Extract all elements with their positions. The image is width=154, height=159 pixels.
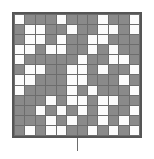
grid-cell[interactable]	[15, 116, 24, 125]
grid-cell[interactable]	[119, 55, 128, 64]
grid-cell[interactable]	[67, 15, 76, 24]
grid-cell[interactable]	[15, 126, 24, 135]
grid-cell[interactable]	[78, 35, 87, 44]
grid-cell[interactable]	[88, 45, 97, 54]
grid-cell[interactable]	[78, 116, 87, 125]
grid-cell[interactable]	[130, 126, 139, 135]
grid-cell[interactable]	[25, 106, 34, 115]
grid-cell[interactable]	[119, 45, 128, 54]
grid-cell[interactable]	[98, 75, 107, 84]
grid-cell[interactable]	[130, 65, 139, 74]
grid-cell[interactable]	[25, 86, 34, 95]
grid-cell[interactable]	[78, 96, 87, 105]
grid-cell[interactable]	[46, 45, 55, 54]
grid-cell[interactable]	[15, 75, 24, 84]
grid-cell[interactable]	[15, 106, 24, 115]
grid-cell[interactable]	[36, 55, 45, 64]
grid-cell[interactable]	[46, 25, 55, 34]
grid-cell[interactable]	[130, 35, 139, 44]
grid-cell[interactable]	[88, 126, 97, 135]
grid-cell[interactable]	[88, 116, 97, 125]
grid-cell[interactable]	[98, 86, 107, 95]
grid-cell[interactable]	[119, 126, 128, 135]
grid-cell[interactable]	[78, 106, 87, 115]
grid-cell[interactable]	[119, 35, 128, 44]
grid-cell[interactable]	[78, 86, 87, 95]
grid-cell[interactable]	[67, 96, 76, 105]
grid-cell[interactable]	[25, 116, 34, 125]
grid-cell[interactable]	[36, 15, 45, 24]
grid-cell[interactable]	[15, 55, 24, 64]
grid-cell[interactable]	[46, 86, 55, 95]
grid-cell[interactable]	[98, 45, 107, 54]
grid-cell[interactable]	[46, 35, 55, 44]
grid-cell[interactable]	[88, 86, 97, 95]
grid-cell[interactable]	[109, 55, 118, 64]
grid-cell[interactable]	[36, 65, 45, 74]
grid-cell[interactable]	[98, 15, 107, 24]
grid-cell[interactable]	[88, 55, 97, 64]
grid-cell[interactable]	[109, 96, 118, 105]
grid-cell[interactable]	[67, 55, 76, 64]
grid-cell[interactable]	[130, 15, 139, 24]
grid-cell[interactable]	[98, 55, 107, 64]
grid-cell[interactable]	[57, 45, 66, 54]
grid-cell[interactable]	[15, 86, 24, 95]
grid-cell[interactable]	[119, 25, 128, 34]
grid-cell[interactable]	[57, 96, 66, 105]
grid-cell[interactable]	[88, 75, 97, 84]
grid-cell[interactable]	[119, 15, 128, 24]
grid-cell[interactable]	[78, 45, 87, 54]
grid-cell[interactable]	[109, 25, 118, 34]
grid-cell[interactable]	[25, 65, 34, 74]
grid-cell[interactable]	[46, 106, 55, 115]
grid-cell[interactable]	[46, 65, 55, 74]
grid-cell[interactable]	[119, 96, 128, 105]
grid-cell[interactable]	[15, 15, 24, 24]
grid-cell[interactable]	[130, 116, 139, 125]
grid-cell[interactable]	[98, 126, 107, 135]
grid-cell[interactable]	[109, 116, 118, 125]
grid-cell[interactable]	[25, 15, 34, 24]
grid-cell[interactable]	[88, 35, 97, 44]
grid-cell[interactable]	[78, 126, 87, 135]
grid-cell[interactable]	[57, 116, 66, 125]
grid-cell[interactable]	[88, 106, 97, 115]
grid-cell[interactable]	[119, 75, 128, 84]
grid-cell[interactable]	[88, 25, 97, 34]
grid-cell[interactable]	[15, 25, 24, 34]
grid-cell[interactable]	[57, 126, 66, 135]
grid-cell[interactable]	[130, 75, 139, 84]
grid-cell[interactable]	[15, 45, 24, 54]
grid-cell[interactable]	[67, 106, 76, 115]
grid-cell[interactable]	[98, 35, 107, 44]
grid-cell[interactable]	[98, 106, 107, 115]
grid-cell[interactable]	[119, 116, 128, 125]
grid-cell[interactable]	[109, 126, 118, 135]
grid-cell[interactable]	[15, 96, 24, 105]
grid-cell[interactable]	[46, 55, 55, 64]
grid-cell[interactable]	[46, 116, 55, 125]
grid-cell[interactable]	[88, 15, 97, 24]
grid-cell[interactable]	[130, 96, 139, 105]
grid-cell[interactable]	[130, 45, 139, 54]
grid-cell[interactable]	[46, 126, 55, 135]
grid-cell[interactable]	[57, 25, 66, 34]
grid-cell[interactable]	[109, 75, 118, 84]
grid-cell[interactable]	[36, 75, 45, 84]
grid-cell[interactable]	[78, 55, 87, 64]
grid-cell[interactable]	[67, 86, 76, 95]
grid-cell[interactable]	[36, 126, 45, 135]
grid-cell[interactable]	[130, 106, 139, 115]
grid-cell[interactable]	[88, 65, 97, 74]
grid-cell[interactable]	[57, 65, 66, 74]
grid-cell[interactable]	[15, 35, 24, 44]
grid-cell[interactable]	[78, 65, 87, 74]
grid-cell[interactable]	[36, 45, 45, 54]
grid-cell[interactable]	[130, 55, 139, 64]
grid-cell[interactable]	[67, 75, 76, 84]
grid-cell[interactable]	[109, 35, 118, 44]
grid-cell[interactable]	[25, 45, 34, 54]
grid-cell[interactable]	[78, 25, 87, 34]
grid-cell[interactable]	[57, 75, 66, 84]
